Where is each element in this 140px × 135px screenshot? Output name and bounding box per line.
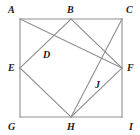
geometry-canvas [0, 0, 140, 135]
diagonal-c-h [71, 19, 122, 117]
diamond-edge-be [20, 19, 71, 68]
vertex-label-e: E [8, 63, 15, 73]
diamond-edge-fb [71, 19, 122, 68]
vertex-label-d: D [43, 50, 50, 60]
diamond-edge-hf [71, 68, 122, 117]
vertex-label-h: H [67, 122, 75, 132]
vertex-label-a: A [8, 5, 15, 15]
vertex-label-b: B [67, 5, 74, 15]
diamond-edge-eh [20, 68, 71, 117]
vertex-label-i: I [129, 122, 133, 132]
geometry-figure: ABCEFGHIDJ [0, 0, 140, 135]
vertex-label-c: C [126, 5, 133, 15]
vertex-label-f: F [127, 63, 134, 73]
diagonal-a-f [20, 19, 122, 68]
segment-group [20, 19, 122, 117]
vertex-label-g: G [8, 122, 15, 132]
vertex-label-j: J [95, 80, 100, 90]
